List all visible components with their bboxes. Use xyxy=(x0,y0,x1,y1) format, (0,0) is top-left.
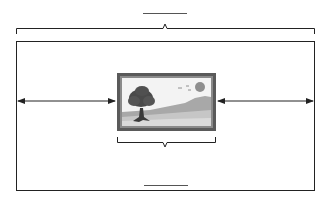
diagram-canvas xyxy=(0,0,323,202)
sun-icon xyxy=(195,82,205,92)
framed-picture xyxy=(117,73,216,131)
top-bracket xyxy=(17,24,315,34)
bottom-bracket xyxy=(118,137,216,147)
